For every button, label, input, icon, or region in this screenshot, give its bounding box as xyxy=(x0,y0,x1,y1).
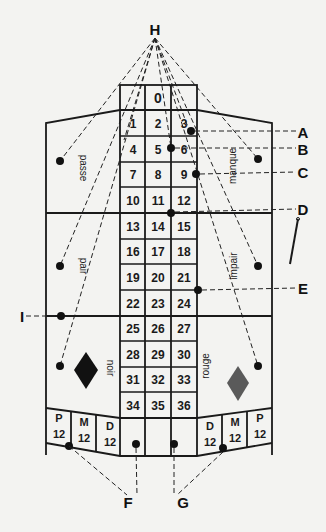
chip-b xyxy=(167,144,175,152)
chip-g-col xyxy=(170,440,178,448)
number-cell[interactable]: 19 xyxy=(126,271,140,285)
pencil-mark xyxy=(290,219,298,264)
dozen-right-m-letter: M xyxy=(230,416,239,428)
label-pair: pair xyxy=(78,258,89,275)
number-cell[interactable]: 3 xyxy=(181,117,188,131)
roulette-table-diagram: H xyxy=(0,0,326,532)
number-cell[interactable]: 13 xyxy=(126,220,140,234)
number-cell[interactable]: 12 xyxy=(177,194,191,208)
right-callout-lines xyxy=(26,131,296,495)
callout-g: G xyxy=(177,494,189,511)
label-passe: passe xyxy=(78,155,89,182)
number-cell[interactable]: 17 xyxy=(151,245,165,259)
number-cell[interactable]: 26 xyxy=(151,322,165,336)
chip-noir xyxy=(56,362,64,370)
chip-c xyxy=(192,170,200,178)
number-cell[interactable]: 23 xyxy=(151,297,165,311)
label-rouge: rouge xyxy=(200,353,211,379)
number-cell[interactable]: 20 xyxy=(151,271,165,285)
dozen-left-d-letter: D xyxy=(106,420,114,432)
chip-manque xyxy=(254,155,262,163)
dozen-right-d-value: 12 xyxy=(204,436,216,448)
number-cell[interactable]: 32 xyxy=(151,373,165,387)
number-cell[interactable]: 16 xyxy=(126,245,140,259)
noir-diamond-icon xyxy=(74,352,98,389)
number-cell[interactable]: 28 xyxy=(126,348,140,362)
number-cell[interactable]: 5 xyxy=(155,143,162,157)
callout-a: A xyxy=(298,124,309,141)
label-noir: noir xyxy=(105,360,116,377)
callout-i: I xyxy=(20,308,24,325)
dozen-right-d-letter: D xyxy=(206,420,214,432)
dozen-left-m-letter: M xyxy=(79,416,88,428)
chip-i xyxy=(57,312,65,320)
chip-d xyxy=(167,209,175,217)
dozen-left-p-value: 12 xyxy=(53,428,65,440)
dozen-right-m-value: 12 xyxy=(229,432,241,444)
number-cell[interactable]: 30 xyxy=(177,348,191,362)
dozen-left-p-letter: P xyxy=(55,412,62,424)
number-cell[interactable]: 29 xyxy=(151,348,165,362)
number-cell[interactable]: 14 xyxy=(151,220,165,234)
callout-e: E xyxy=(298,280,308,297)
callout-h: H xyxy=(150,21,161,38)
dozen-left-d-value: 12 xyxy=(104,436,116,448)
callout-f: F xyxy=(123,494,132,511)
rouge-diamond-icon xyxy=(227,366,249,401)
chip-a xyxy=(187,127,195,135)
chip-g-right xyxy=(219,444,227,452)
callout-d: D xyxy=(298,201,309,218)
number-cell[interactable]: 1 xyxy=(130,117,137,131)
number-cell[interactable]: 9 xyxy=(181,168,188,182)
callout-c: C xyxy=(298,164,309,181)
number-cell[interactable]: 10 xyxy=(126,194,140,208)
number-cell[interactable]: 2 xyxy=(155,117,162,131)
number-cell[interactable]: 35 xyxy=(151,399,165,413)
chip-e xyxy=(194,286,202,294)
label-impair: impair xyxy=(228,252,239,280)
number-zero[interactable]: 0 xyxy=(154,90,162,106)
number-cell[interactable]: 22 xyxy=(126,297,140,311)
number-cell[interactable]: 25 xyxy=(126,322,140,336)
number-cell[interactable]: 21 xyxy=(177,271,191,285)
chip-pair xyxy=(56,262,64,270)
number-cell[interactable]: 31 xyxy=(126,373,140,387)
number-cell[interactable]: 7 xyxy=(130,168,137,182)
number-cell[interactable]: 15 xyxy=(177,220,191,234)
number-cell[interactable]: 34 xyxy=(126,399,140,413)
number-cell[interactable]: 36 xyxy=(177,399,191,413)
number-cell[interactable]: 4 xyxy=(130,143,137,157)
number-cell[interactable]: 6 xyxy=(181,143,188,157)
dozen-right-p-value: 12 xyxy=(254,428,266,440)
number-cell[interactable]: 27 xyxy=(177,322,191,336)
number-cell[interactable]: 33 xyxy=(177,373,191,387)
chip-f-col xyxy=(132,440,140,448)
number-cell[interactable]: 11 xyxy=(152,194,165,208)
number-cell[interactable]: 24 xyxy=(177,297,191,311)
dozen-right-p-letter: P xyxy=(256,412,263,424)
number-cell[interactable]: 8 xyxy=(155,168,162,182)
chip-rouge xyxy=(254,362,262,370)
number-cell[interactable]: 18 xyxy=(177,245,191,259)
callout-b: B xyxy=(298,141,309,158)
chip-impair xyxy=(254,262,262,270)
chip-passe xyxy=(56,157,64,165)
dozen-left-m-value: 12 xyxy=(78,432,90,444)
label-manque: manque xyxy=(227,147,238,184)
